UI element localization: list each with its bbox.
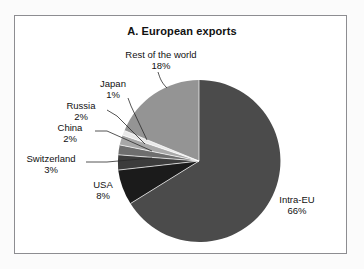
pie-label-rest-of-the-world-value: 18% bbox=[116, 61, 206, 72]
pie-label-china-value: 2% bbox=[49, 134, 91, 145]
pie-label-switzerland-name: Switzerland bbox=[20, 154, 82, 165]
figure-root: A. European exports Rest of the world 18… bbox=[0, 0, 364, 269]
pie-label-intra-eu-value: 66% bbox=[270, 206, 324, 217]
pie-label-rest-of-the-world-name: Rest of the world bbox=[116, 50, 206, 61]
pie-label-japan-name: Japan bbox=[90, 79, 136, 90]
pie-label-china-name: China bbox=[49, 123, 91, 134]
pie-label-russia-value: 2% bbox=[57, 112, 105, 123]
pie-label-russia: Russia 2% bbox=[57, 101, 105, 122]
page-title: A. European exports bbox=[0, 25, 364, 37]
pie-label-china: China 2% bbox=[49, 123, 91, 144]
pie-label-intra-eu: Intra-EU 66% bbox=[270, 195, 324, 216]
pie-label-usa-name: USA bbox=[84, 180, 122, 191]
pie-label-usa: USA 8% bbox=[84, 180, 122, 201]
pie-label-switzerland: Switzerland 3% bbox=[20, 154, 82, 175]
pie-label-russia-name: Russia bbox=[57, 101, 105, 112]
pie-label-switzerland-value: 3% bbox=[20, 165, 82, 176]
leader-line-rest-of-the-world bbox=[158, 72, 167, 88]
pie-label-japan-value: 1% bbox=[90, 90, 136, 101]
pie-label-japan: Japan 1% bbox=[90, 79, 136, 100]
pie-label-rest-of-the-world: Rest of the world 18% bbox=[116, 50, 206, 71]
pie-label-usa-value: 8% bbox=[84, 191, 122, 202]
pie-label-intra-eu-name: Intra-EU bbox=[270, 195, 324, 206]
